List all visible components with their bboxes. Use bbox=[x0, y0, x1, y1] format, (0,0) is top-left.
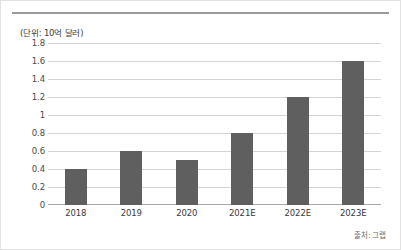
plot-area: 00.20.40.60.811.21.41.61.8 2018201920202… bbox=[1, 1, 401, 250]
bar-2023E bbox=[342, 61, 364, 205]
x-axis-tick-label: 2018 bbox=[48, 208, 104, 218]
y-axis-tick-label: 0 bbox=[40, 200, 45, 210]
y-axis-tick-label: 0.2 bbox=[32, 182, 45, 192]
chart-figure: (단위: 10억 달러) 00.20.40.60.811.21.41.61.8 … bbox=[0, 0, 401, 250]
bar-slot bbox=[48, 43, 104, 205]
bar-2021E bbox=[231, 133, 253, 205]
bar-2022E bbox=[287, 97, 309, 205]
source-label: 출처: 그랩 bbox=[354, 229, 386, 240]
x-axis-tick-label: 2020 bbox=[159, 208, 215, 218]
bar-series bbox=[48, 43, 381, 205]
bar-slot bbox=[159, 43, 215, 205]
y-axis-tick-label: 1.4 bbox=[32, 74, 45, 84]
x-axis-labels: 2018201920202021E2022E2023E bbox=[48, 208, 381, 222]
bar-slot bbox=[215, 43, 271, 205]
x-axis-tick-label: 2021E bbox=[215, 208, 271, 218]
x-axis-tick-label: 2023E bbox=[326, 208, 382, 218]
bar-slot bbox=[326, 43, 382, 205]
y-axis-tick-label: 0.8 bbox=[32, 128, 45, 138]
y-axis-tick-label: 1.6 bbox=[32, 56, 45, 66]
bar-2018 bbox=[65, 169, 87, 205]
bar-slot bbox=[104, 43, 160, 205]
x-axis-tick-label: 2019 bbox=[104, 208, 160, 218]
y-axis-tick-label: 0.4 bbox=[32, 164, 45, 174]
y-axis-tick-label: 1.2 bbox=[32, 92, 45, 102]
y-axis-tick-label: 1 bbox=[40, 110, 45, 120]
bar-2019 bbox=[120, 151, 142, 205]
y-axis-tick-label: 0.6 bbox=[32, 146, 45, 156]
bar-slot bbox=[270, 43, 326, 205]
x-axis-tick-label: 2022E bbox=[270, 208, 326, 218]
bar-2020 bbox=[176, 160, 198, 205]
y-axis-tick-label: 1.8 bbox=[32, 38, 45, 48]
y-axis: 00.20.40.60.811.21.41.61.8 bbox=[15, 43, 45, 205]
